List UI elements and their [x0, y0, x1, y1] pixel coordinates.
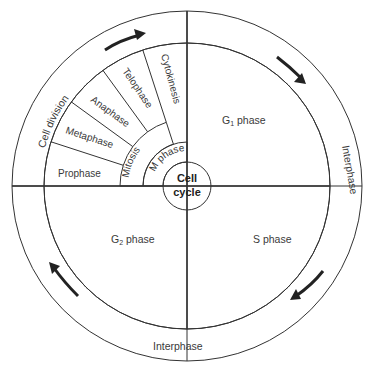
stage-cytokinesis: Cytokinesis	[159, 53, 183, 105]
clockwise-arrow-bottom-left	[49, 262, 78, 296]
cell-division-label: Cell division	[35, 92, 71, 149]
stage-prophase: Prophase	[58, 168, 101, 179]
interphase-right-label: Interphase	[340, 144, 360, 195]
center-label-line1: Cell	[177, 172, 197, 184]
clockwise-arrow-top	[105, 29, 146, 50]
s-phase-label: S phase	[253, 233, 292, 245]
center-label-line2: cycle	[173, 186, 201, 198]
interphase-bottom-label: Interphase	[153, 340, 203, 352]
g1-phase-label: G1 phase	[222, 114, 266, 127]
mitosis-label: Mitosis	[120, 144, 143, 178]
g2-phase-label: G2 phase	[111, 233, 155, 246]
cell-cycle-diagram: Cell cycle G1 phase S phase G2 phase Pro…	[0, 0, 375, 373]
clockwise-arrow-bottom-right	[290, 271, 323, 300]
g2-phase-sector	[44, 186, 187, 329]
stage-anaphase: Anaphase	[89, 94, 132, 130]
s-phase-sector	[187, 186, 330, 329]
clockwise-arrow-right	[277, 57, 306, 84]
